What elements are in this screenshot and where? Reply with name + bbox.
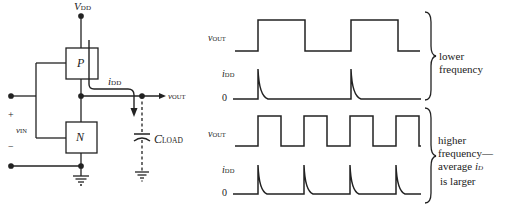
idd-current-path — [89, 40, 134, 110]
vin-minus-label: − — [8, 142, 14, 152]
avg-sub: D — [478, 164, 483, 172]
cload-label-sub: LOAD — [162, 136, 183, 145]
cmos-inverter-figure — [0, 0, 510, 207]
pmos-label: P — [77, 57, 84, 69]
output-arrow-icon — [159, 93, 166, 99]
vin-label-sub: IN — [20, 127, 27, 134]
idd-circuit-label: iDD — [108, 76, 122, 87]
low-freq-vout-label: vOUT — [208, 33, 226, 43]
ground-icon — [73, 176, 89, 185]
high-freq-waveforms — [233, 116, 421, 194]
high-freq-annotation-line3: average iD — [438, 160, 493, 175]
avg-prefix: average — [438, 160, 475, 172]
cload-label: CLOAD — [154, 133, 183, 145]
vdd-label: VDD — [74, 1, 91, 12]
vdd-label-main: V — [74, 0, 81, 12]
vin-plus-label: + — [8, 110, 14, 120]
low-freq-idd-trace — [233, 69, 421, 99]
high-freq-annotation-line4: is larger — [438, 175, 493, 188]
vout-circuit-label: vOUT — [168, 92, 185, 101]
low-vout-sub: OUT — [212, 35, 225, 42]
vout-circuit-label-sub: OUT — [172, 93, 185, 100]
high-freq-zero-label: 0 — [222, 188, 227, 198]
high-vout-sub: OUT — [212, 131, 225, 138]
low-freq-zero-label: 0 — [222, 93, 227, 103]
high-freq-idd-label: iDD — [222, 165, 235, 175]
high-freq-brace-icon — [425, 108, 436, 203]
vdd-label-sub: DD — [81, 4, 92, 12]
high-freq-idd-trace — [233, 165, 421, 194]
low-freq-annotation: lower frequency — [439, 50, 510, 76]
low-freq-brace-icon — [425, 12, 436, 100]
idd-arrow-icon — [131, 108, 138, 117]
vin-label: vIN — [16, 126, 27, 135]
high-freq-vout-trace — [235, 116, 421, 146]
cmos-inverter-circuit — [9, 14, 166, 185]
high-freq-annotation: higher frequency— average iD is larger — [438, 134, 493, 188]
nmos-label: N — [76, 131, 84, 143]
high-idd-sub: DD — [225, 167, 235, 174]
high-freq-vout-label: vOUT — [208, 129, 226, 139]
low-freq-idd-label: iDD — [222, 69, 235, 79]
cap-ground-icon — [135, 172, 149, 181]
cload-label-main: C — [154, 132, 162, 146]
input-terminal-dot — [9, 94, 13, 98]
high-freq-annotation-line2: frequency— — [438, 147, 493, 160]
low-freq-waveforms — [233, 20, 421, 99]
low-freq-vout-trace — [235, 20, 420, 51]
high-freq-annotation-line1: higher — [438, 134, 493, 147]
low-idd-sub: DD — [225, 71, 235, 78]
idd-circuit-label-sub: DD — [111, 79, 122, 87]
